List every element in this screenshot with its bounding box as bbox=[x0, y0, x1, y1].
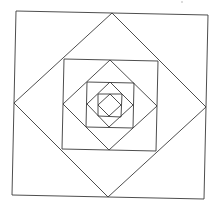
diamond-3 bbox=[87, 82, 133, 127]
diamond-1 bbox=[14, 13, 206, 197]
square-2 bbox=[62, 59, 158, 151]
square-1 bbox=[12, 11, 208, 199]
diamond-4 bbox=[98, 94, 121, 116]
diamond-2 bbox=[63, 60, 157, 150]
square-3 bbox=[86, 82, 134, 128]
square-4 bbox=[98, 94, 122, 117]
nested-squares-diagram bbox=[0, 0, 217, 206]
scan-speck bbox=[181, 1, 183, 3]
